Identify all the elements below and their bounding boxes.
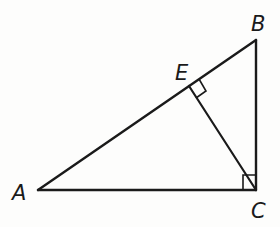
label-c: C (251, 199, 266, 223)
label-b: B (251, 12, 265, 36)
label-e: E (175, 61, 189, 85)
segment-ab (38, 40, 256, 190)
label-a: A (10, 181, 26, 205)
right-angle-marker-e (196, 79, 206, 98)
triangle-diagram: A B C E (0, 0, 280, 227)
